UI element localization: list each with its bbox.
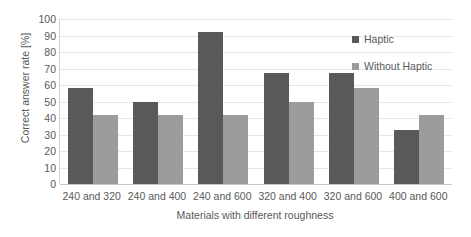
bar-group bbox=[60, 19, 125, 184]
y-axis-tick-label: 20 bbox=[26, 145, 56, 157]
legend-swatch-icon bbox=[352, 36, 359, 43]
y-axis-tick-label: 100 bbox=[26, 13, 56, 25]
bar bbox=[158, 115, 183, 184]
bar bbox=[264, 73, 289, 184]
x-axis-tick-label: 240 and 320 bbox=[59, 188, 124, 204]
legend-swatch-icon bbox=[352, 63, 359, 70]
bar bbox=[329, 73, 354, 184]
legend: HapticWithout Haptic bbox=[352, 33, 432, 72]
bar bbox=[223, 115, 248, 184]
bar-group bbox=[125, 19, 190, 184]
y-axis-tick-label: 10 bbox=[26, 162, 56, 174]
legend-label: Haptic bbox=[364, 33, 394, 45]
x-axis-tick-label: 240 and 400 bbox=[124, 188, 189, 204]
gridline bbox=[60, 184, 452, 185]
bar-chart: Correct answer rate [%] 1009080706050403… bbox=[0, 0, 471, 237]
bar bbox=[394, 130, 419, 184]
legend-label: Without Haptic bbox=[364, 60, 432, 72]
y-axis-tick-label: 70 bbox=[26, 63, 56, 75]
y-axis-tick-label: 30 bbox=[26, 129, 56, 141]
bar bbox=[93, 115, 118, 184]
y-axis-tick-label: 0 bbox=[26, 178, 56, 190]
bar bbox=[68, 88, 93, 184]
x-axis-tick-label: 320 and 400 bbox=[255, 188, 320, 204]
y-axis-tick-label: 90 bbox=[26, 30, 56, 42]
x-axis-tick-labels: 240 and 320240 and 400240 and 600320 and… bbox=[59, 188, 451, 204]
y-axis-tick-labels: 1009080706050403020100 bbox=[26, 12, 56, 192]
y-axis-tick-label: 50 bbox=[26, 96, 56, 108]
y-axis-tick-label: 40 bbox=[26, 112, 56, 124]
x-axis-title: Materials with different roughness bbox=[59, 209, 451, 221]
bar bbox=[198, 32, 223, 184]
bar bbox=[289, 102, 314, 185]
x-axis-tick-label: 400 and 600 bbox=[386, 188, 451, 204]
bar bbox=[354, 88, 379, 184]
y-axis-tick-label: 60 bbox=[26, 79, 56, 91]
bar bbox=[419, 115, 444, 184]
x-axis-tick-label: 320 and 600 bbox=[320, 188, 385, 204]
legend-item: Haptic bbox=[352, 33, 432, 45]
y-axis-tick-label: 80 bbox=[26, 46, 56, 58]
bar-group bbox=[191, 19, 256, 184]
bar bbox=[133, 102, 158, 185]
legend-item: Without Haptic bbox=[352, 60, 432, 72]
bar-group bbox=[256, 19, 321, 184]
x-axis-tick-label: 240 and 600 bbox=[190, 188, 255, 204]
